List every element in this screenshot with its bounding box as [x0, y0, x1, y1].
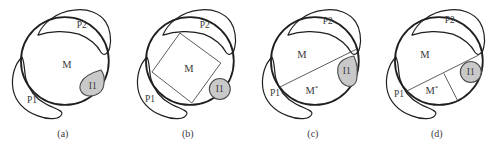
- label-i1: I1: [342, 66, 350, 76]
- panel-a-drawing: P2 M P1 I1 (a): [0, 0, 125, 152]
- caption-d: (d): [431, 128, 443, 140]
- label-p1: P1: [145, 94, 155, 104]
- label-p2: P2: [322, 16, 332, 26]
- label-m-star-sup: *: [314, 84, 318, 92]
- label-m-star-base: M: [305, 85, 314, 96]
- label-m: M: [62, 59, 71, 70]
- p2-cusp-outline: [38, 10, 111, 55]
- caption-a: (a): [57, 128, 68, 140]
- panel-b: P2 M P1 I1 (b): [125, 0, 250, 152]
- label-p2: P2: [445, 15, 455, 25]
- label-p1: P1: [269, 88, 279, 98]
- label-i1: I1: [467, 67, 475, 77]
- label-p2: P2: [200, 20, 210, 30]
- label-p2: P2: [77, 20, 87, 30]
- label-m: M: [420, 49, 429, 60]
- label-i1: I1: [89, 81, 97, 91]
- label-p1: P1: [394, 89, 404, 99]
- panel-d: P2 M M* P1 I1 (d): [374, 0, 499, 152]
- panel-b-drawing: P2 M P1 I1 (b): [125, 0, 250, 152]
- label-m-star-sup: *: [435, 84, 439, 92]
- panel-c-drawing: P2 M M* P1 I1 (c): [250, 0, 375, 152]
- label-m: M: [184, 63, 193, 74]
- label-p1: P1: [27, 95, 37, 105]
- label-m-star: M*: [305, 84, 318, 96]
- p1-cusp-outline: [12, 57, 62, 119]
- p1-cusp-outline: [137, 57, 187, 119]
- panel-c: P2 M M* P1 I1 (c): [250, 0, 375, 152]
- four-panel-tooth-diagram: P2 M P1 I1 (a) P2 M P1 I1 (b): [0, 0, 499, 152]
- label-i1: I1: [216, 84, 224, 94]
- label-m-star-base: M: [426, 85, 435, 96]
- label-m: M: [297, 49, 306, 60]
- label-m-star: M*: [426, 84, 439, 96]
- panel-d-drawing: P2 M M* P1 I1 (d): [374, 0, 499, 152]
- perpendicular-line: [444, 74, 458, 101]
- panel-a: P2 M P1 I1 (a): [0, 0, 125, 152]
- caption-b: (b): [182, 128, 194, 140]
- caption-c: (c): [307, 128, 318, 140]
